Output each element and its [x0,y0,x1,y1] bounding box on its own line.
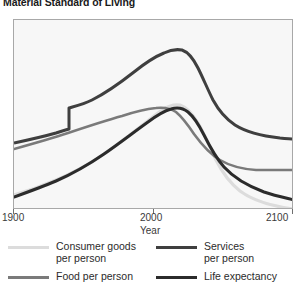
legend-item-life-expectancy: Life expectancy [156,271,304,283]
x-tick-label-start: 1900 [2,212,24,223]
legend-label-life-expectancy: Life expectancy [204,271,277,283]
plot-area [13,19,293,209]
series-line-life-expectancy [14,108,293,200]
legend-swatch-consumer-goods-per-person [8,246,49,249]
legend-label-services-per-person: Services per person [204,241,254,264]
series-line-consumer-goods-per-person [14,105,293,209]
x-tick-label-middle: 2000 [140,212,162,223]
legend-item-consumer-goods-per-person: Consumer goods per person [8,241,156,264]
plot-lines [14,20,293,209]
chart-title: Material Standard of Living [3,0,135,8]
legend-label-food-per-person: Food per person [56,271,133,283]
chart-root: Material Standard of Living 1900 2000 21… [0,0,307,289]
legend-label-consumer-goods-per-person: Consumer goods per person [56,241,136,264]
legend-item-services-per-person: Services per person [156,241,304,264]
legend-swatch-life-expectancy [156,276,197,279]
x-axis-label: Year [140,225,160,236]
chart-legend: Consumer goods per person Services per p… [8,241,303,283]
series-line-services-per-person [14,50,293,143]
x-tick-label-end: 2100 [266,212,288,223]
legend-swatch-services-per-person [156,246,197,249]
legend-swatch-food-per-person [8,276,49,279]
legend-item-food-per-person: Food per person [8,271,156,283]
x-tick-2100 [292,209,293,214]
